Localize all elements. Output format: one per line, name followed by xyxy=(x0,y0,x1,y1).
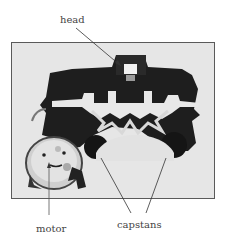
label-head: head xyxy=(60,15,85,25)
label-motor: motor xyxy=(36,224,66,234)
mechanism-illustration xyxy=(12,43,215,199)
mechanism-photo xyxy=(11,42,215,199)
label-capstans: capstans xyxy=(117,220,162,230)
